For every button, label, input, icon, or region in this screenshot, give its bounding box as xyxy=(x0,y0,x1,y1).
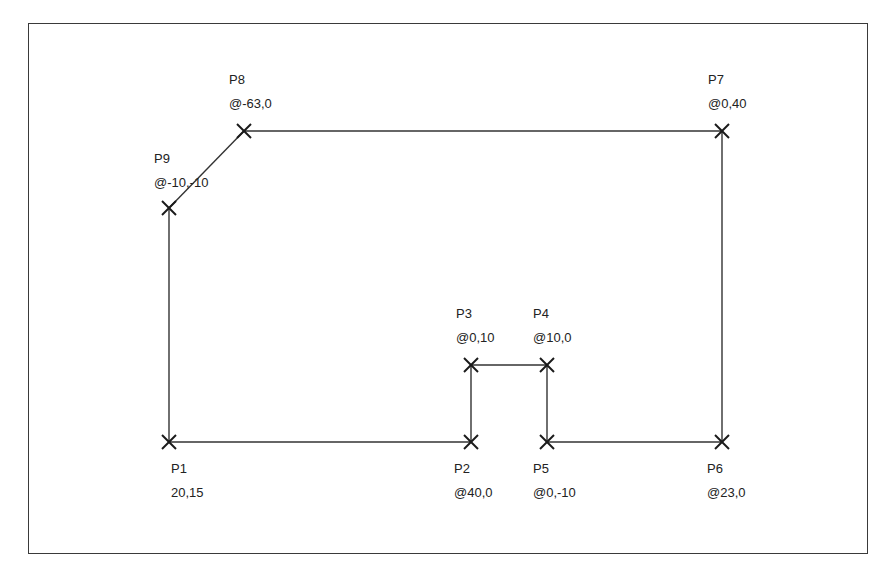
point-name: P4 xyxy=(533,306,572,322)
point-coordinate: @0,40 xyxy=(708,96,747,112)
point-name: P3 xyxy=(456,306,495,322)
point-label-p1: P1 20,15 xyxy=(171,461,204,501)
point-name: P9 xyxy=(154,151,208,167)
point-label-p2: P2 @40,0 xyxy=(454,461,493,501)
point-coordinate: @0,10 xyxy=(456,330,495,346)
point-label-p3: P3 @0,10 xyxy=(456,306,495,346)
point-label-p9: P9 @-10,-10 xyxy=(154,151,208,191)
point-coordinate: @-63,0 xyxy=(229,96,272,112)
point-coordinate: @-10,-10 xyxy=(154,175,208,191)
point-coordinate: @10,0 xyxy=(533,330,572,346)
point-name: P2 xyxy=(454,461,493,477)
point-name: P6 xyxy=(707,461,746,477)
point-label-p4: P4 @10,0 xyxy=(533,306,572,346)
point-markers xyxy=(162,124,729,449)
point-coordinate: @0,-10 xyxy=(533,485,576,501)
point-coordinate: @23,0 xyxy=(707,485,746,501)
point-label-p8: P8 @-63,0 xyxy=(229,72,272,112)
point-label-p5: P5 @0,-10 xyxy=(533,461,576,501)
point-coordinate: @40,0 xyxy=(454,485,493,501)
outline-polyline xyxy=(169,131,722,442)
point-name: P8 xyxy=(229,72,272,88)
point-name: P7 xyxy=(708,72,747,88)
drawing-canvas xyxy=(0,0,892,577)
point-name: P1 xyxy=(171,461,204,477)
point-label-p6: P6 @23,0 xyxy=(707,461,746,501)
point-label-p7: P7 @0,40 xyxy=(708,72,747,112)
point-name: P5 xyxy=(533,461,576,477)
point-coordinate: 20,15 xyxy=(171,485,204,501)
